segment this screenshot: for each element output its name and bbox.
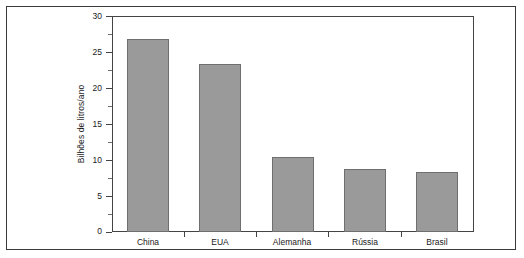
y-minor-tick-27-5 (108, 34, 112, 35)
y-tick-label-0: 0 (80, 227, 102, 236)
y-tick-label-5: 5 (80, 192, 102, 201)
y-tick-label-15: 15 (80, 120, 102, 129)
y-tick-mark-20 (106, 88, 112, 89)
y-tick-label-25: 25 (80, 48, 102, 57)
y-tick-mark-0 (106, 232, 112, 233)
x-tick-label-brasil: Brasil (401, 237, 473, 248)
y-minor-tick-22-5 (108, 70, 112, 71)
x-tick-label-eua: EUA (184, 237, 256, 248)
bar-alemanha[interactable] (272, 157, 314, 232)
bar-eua[interactable] (199, 64, 241, 232)
y-tick-mark-10 (106, 160, 112, 161)
bar-china[interactable] (127, 39, 169, 232)
y-tick-mark-30 (106, 16, 112, 17)
bar-russia[interactable] (344, 169, 386, 232)
y-tick-label-20: 20 (80, 84, 102, 93)
y-minor-tick-2-5 (108, 214, 112, 215)
y-tick-mark-15 (106, 124, 112, 125)
y-tick-label-10: 10 (80, 156, 102, 165)
y-tick-mark-5 (106, 196, 112, 197)
y-minor-tick-17-5 (108, 106, 112, 107)
y-tick-mark-25 (106, 52, 112, 53)
y-minor-tick-12-5 (108, 142, 112, 143)
bar-brasil[interactable] (416, 172, 458, 232)
x-tick-label-china: China (112, 237, 184, 248)
y-tick-label-30: 30 (80, 12, 102, 21)
chart-figure: Bilhões de litros/ano 30 25 20 15 10 5 0… (0, 0, 524, 258)
y-minor-tick-7-5 (108, 178, 112, 179)
x-tick-label-russia: Rússia (329, 237, 401, 248)
x-tick-label-alemanha: Alemanha (256, 237, 328, 248)
